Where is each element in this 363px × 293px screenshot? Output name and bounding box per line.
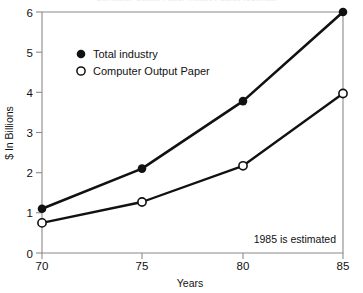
x-axis-tick-labels: 70 75 80 85 bbox=[36, 260, 350, 272]
y-axis-tick-labels: 0 1 2 3 4 5 6 bbox=[27, 7, 34, 260]
y-tick-label: 1 bbox=[27, 207, 33, 219]
legend-marker-open-circle-icon bbox=[77, 67, 85, 75]
data-point bbox=[339, 89, 347, 97]
x-tick-label: 85 bbox=[337, 260, 350, 272]
x-tick-label: 80 bbox=[237, 260, 250, 272]
data-point bbox=[38, 219, 46, 227]
x-axis-title: Years bbox=[177, 277, 203, 289]
y-tick-label: 2 bbox=[27, 167, 33, 179]
series-line bbox=[42, 12, 343, 209]
plot-frame bbox=[42, 12, 343, 253]
data-point bbox=[138, 198, 146, 206]
legend-label-computer-output-paper: Computer Output Paper bbox=[93, 65, 210, 77]
x-axis-ticks bbox=[42, 253, 343, 259]
data-point bbox=[239, 97, 248, 106]
y-tick-label: 6 bbox=[27, 7, 33, 19]
series-computer-output-paper bbox=[38, 89, 347, 227]
clipped-chart-title: Computer Output Paper Industry Sales (es… bbox=[96, 0, 276, 1]
y-tick-label: 0 bbox=[27, 248, 33, 260]
y-tick-label: 3 bbox=[27, 127, 33, 139]
x-tick-label: 75 bbox=[136, 260, 149, 272]
y-tick-label: 5 bbox=[27, 47, 33, 59]
y-axis-title: $ In Billions bbox=[3, 106, 15, 160]
data-point bbox=[339, 8, 348, 17]
y-tick-label: 4 bbox=[27, 87, 34, 99]
legend-label-total-industry: Total industry bbox=[93, 48, 158, 60]
data-point bbox=[138, 164, 147, 173]
series-line bbox=[42, 94, 343, 223]
chart-figure: Computer Output Paper Industry Sales (es… bbox=[0, 0, 363, 293]
x-tick-label: 70 bbox=[36, 260, 49, 272]
data-point bbox=[239, 162, 247, 170]
line-chart-plot: 0 1 2 3 4 5 6 70 75 80 85 Years $ In Bil… bbox=[0, 0, 363, 293]
chart-legend: Total industry Computer Output Paper bbox=[77, 48, 210, 77]
data-point bbox=[38, 205, 47, 214]
legend-marker-filled-circle-icon bbox=[77, 50, 86, 59]
y-axis-ticks bbox=[36, 12, 42, 253]
chart-annotation-1985-estimated: 1985 is estimated bbox=[254, 233, 336, 245]
series-total-industry bbox=[38, 8, 348, 213]
